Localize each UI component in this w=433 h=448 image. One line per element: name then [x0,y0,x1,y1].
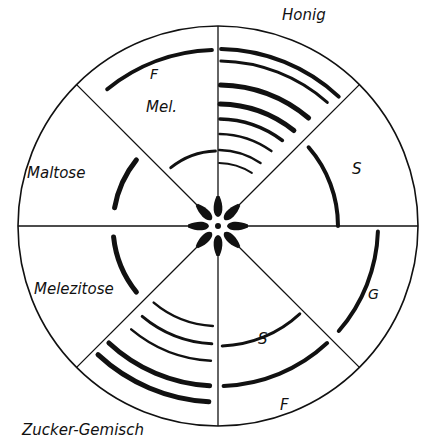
band-arc [114,237,137,292]
label-melezitose: Melezitose [34,282,114,297]
label-mel: Mel. [146,100,177,115]
label-s-bottom: S [258,332,268,347]
band-arc [224,343,328,386]
label-zucker-gemisch: Zucker-Gemisch [22,423,144,438]
band-arc [154,303,213,326]
band-arc [220,134,272,151]
band-arc [309,147,338,226]
band-arc [142,316,212,343]
band-arc [219,163,252,173]
label-honig: Honig [282,8,326,23]
label-s-right: S [352,162,362,177]
band-arc [171,151,216,168]
application-star [188,196,248,256]
band-arc [107,50,212,89]
label-f-top: F [150,67,158,81]
chromatogram-diagram [0,0,433,448]
label-maltose: Maltose [27,166,85,181]
label-g-right: G [368,287,379,301]
band-arc [220,119,283,141]
label-f-bottom: F [280,398,289,413]
band-arc [219,150,260,163]
band-arc [115,160,137,208]
band-arc [339,232,378,331]
band-arc [109,343,210,386]
band-arc [98,355,209,402]
